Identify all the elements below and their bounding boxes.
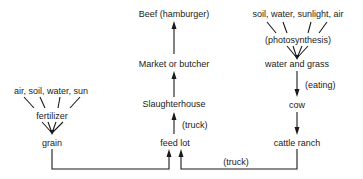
beef-production-diagram: Beef (hamburger) Market or butcher Slaug… [0, 0, 363, 179]
node-water-and-grass: water and grass [265, 59, 329, 69]
node-feed-lot: feed lot [160, 138, 190, 148]
node-market-or-butcher: Market or butcher [139, 59, 210, 69]
node-slaughterhouse: Slaughterhouse [142, 99, 205, 109]
node-fertilizer: fertilizer [36, 111, 68, 121]
edge-label-eating: (eating) [305, 80, 336, 90]
edge-label-truck-feedlot: (truck) [182, 120, 208, 130]
node-beef-hamburger: Beef (hamburger) [139, 9, 210, 19]
arrow-grain-to-feedlot [52, 149, 169, 169]
edge-label-truck-ranch: (truck) [223, 157, 249, 167]
node-grass-inputs: soil, water, sunlight, air [252, 9, 343, 19]
node-grain-inputs: air, soil, water, sun [14, 86, 88, 96]
node-cattle-ranch: cattle ranch [274, 138, 321, 148]
node-cow: cow [289, 100, 305, 110]
node-photosynthesis: (photosynthesis) [265, 35, 331, 45]
node-grain: grain [42, 138, 62, 148]
